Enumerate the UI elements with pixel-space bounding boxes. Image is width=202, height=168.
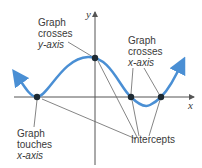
annotation-intercepts: Intercepts — [131, 134, 175, 145]
x-intercept-point-2 — [158, 94, 164, 100]
annotation-y-cross: Graph crosses y-axis — [38, 17, 72, 50]
annotation-x-touch: Graph touches x-axis — [17, 128, 52, 161]
function-graph-figure: y x Graph crosses y-axis Graph crosses x… — [0, 0, 202, 168]
x-axis-label: x — [188, 99, 193, 111]
touch-point — [34, 94, 40, 100]
y-intercept-point — [92, 55, 98, 61]
annotation-x-cross: Graph crosses x-axis — [128, 35, 162, 68]
y-axis-label: y — [86, 8, 91, 20]
x-intercept-point-1 — [128, 94, 134, 100]
